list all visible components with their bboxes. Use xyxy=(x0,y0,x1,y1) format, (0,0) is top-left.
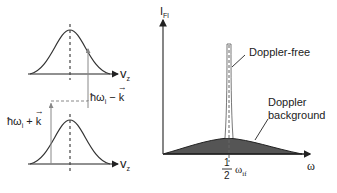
doppler-label-line1: Doppler xyxy=(268,97,307,108)
doppler-free-pointer xyxy=(232,55,245,67)
connector-dashed-line xyxy=(51,100,88,108)
background-pointer xyxy=(255,119,268,140)
fraction-numerator: 1 xyxy=(224,158,230,168)
doppler-background-shaded xyxy=(163,138,302,154)
fraction-denominator: 2 xyxy=(224,171,230,181)
intensity-axis-label: IFl xyxy=(160,6,169,17)
doppler-label-line2: background xyxy=(268,110,326,121)
bottom-vz-label: vz xyxy=(120,157,130,170)
plus-k-label: ħωi + k xyxy=(7,116,41,127)
spectrum-plot xyxy=(163,20,310,169)
top-vz-label: vz xyxy=(120,67,130,80)
omega-if-label: ωif xyxy=(235,164,247,175)
minus-k-label: ħωi − k xyxy=(90,92,124,103)
doppler-free-label: Doppler-free xyxy=(249,47,310,58)
omega-axis-label: ω xyxy=(307,160,315,172)
